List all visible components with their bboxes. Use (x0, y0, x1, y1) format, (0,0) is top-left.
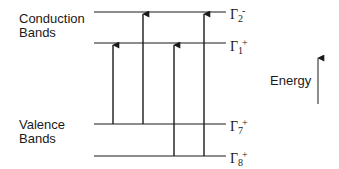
conduction-bands-label: Conduction Bands (19, 12, 85, 40)
energy-axis-label: Energy (270, 74, 311, 88)
conduction-label-line1: Conduction (19, 12, 85, 26)
level-label-gamma2-minus: Γ2- (230, 4, 245, 26)
level-label-gamma1-plus: Γ1+ (230, 36, 248, 58)
valence-label-line1: Valence (19, 118, 65, 132)
conduction-label-line2: Bands (19, 26, 85, 40)
valence-bands-label: Valence Bands (19, 118, 65, 146)
level-label-gamma7-plus: Γ7+ (230, 116, 248, 138)
valence-label-line2: Bands (19, 132, 65, 146)
level-label-gamma8-plus: Γ8+ (230, 148, 248, 169)
